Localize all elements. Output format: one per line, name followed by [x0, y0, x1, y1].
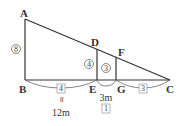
length-BE: 12m — [52, 107, 70, 118]
label-B: B — [19, 83, 27, 95]
diagram-canvas: A B C D E F G 8 4 3 4 3 1 ॥ 12m 3m — [0, 0, 185, 126]
brace-EG — [97, 80, 116, 86]
label-C: C — [166, 83, 174, 95]
label-A: A — [20, 7, 28, 19]
ratio-GC: 3 — [141, 84, 145, 93]
label-E: E — [89, 83, 96, 95]
ratio-EG: 1 — [104, 104, 108, 113]
label-F: F — [118, 46, 125, 58]
label-G: G — [117, 83, 126, 95]
ratio-FG: 3 — [104, 64, 108, 73]
label-D: D — [91, 36, 99, 48]
ratio-AB: 8 — [14, 45, 18, 54]
length-EG: 3m — [100, 92, 113, 103]
ratio-DE: 4 — [87, 60, 91, 69]
equals-mark-BE: ॥ — [59, 95, 64, 104]
ratio-BE: 4 — [59, 84, 63, 93]
